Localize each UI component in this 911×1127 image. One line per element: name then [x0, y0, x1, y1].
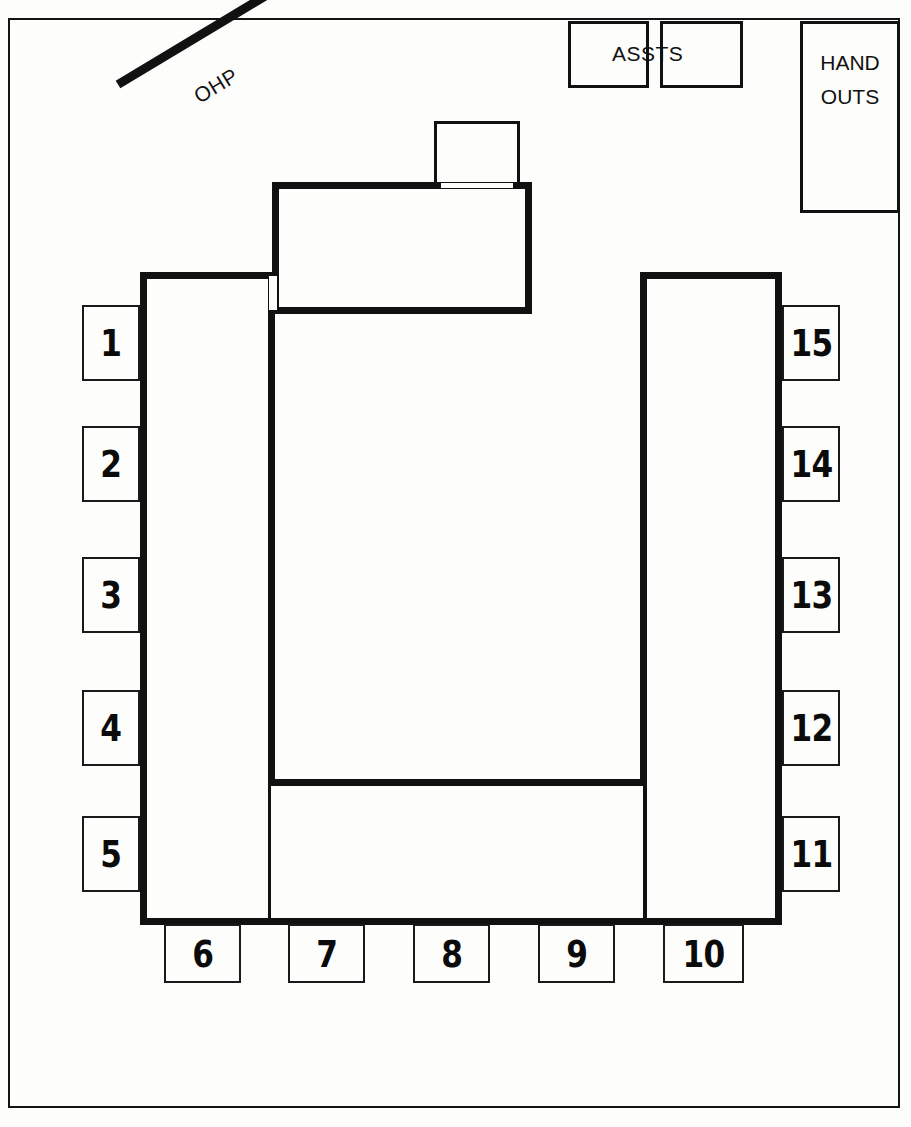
table-bottom-run	[268, 779, 646, 925]
seat-7[interactable]: 7	[288, 924, 365, 983]
seat-13-number: 13	[790, 576, 832, 614]
bottom-bay-left-edge	[268, 786, 271, 920]
seat-8[interactable]: 8	[413, 924, 490, 983]
seat-1-number: 1	[101, 324, 122, 362]
seat-2-number: 2	[101, 445, 122, 483]
assistants-label: ASSTS	[612, 42, 683, 66]
seat-10-number: 10	[683, 935, 725, 973]
seat-12[interactable]: 12	[782, 690, 840, 766]
seat-4[interactable]: 4	[82, 690, 140, 766]
handouts-label-line1: HAND	[803, 46, 897, 80]
seminar-room-plan: OHP ASSTS HAND OUTS 1 2 3 4 5 15	[0, 0, 911, 1127]
handouts-label-line2: OUTS	[803, 80, 897, 114]
head-table	[272, 182, 532, 314]
seat-15[interactable]: 15	[782, 305, 840, 381]
seat-11-number: 11	[790, 835, 832, 873]
seat-6[interactable]: 6	[164, 924, 241, 983]
seat-11[interactable]: 11	[782, 816, 840, 892]
head-left-arm-join-mask	[269, 276, 277, 310]
seat-12-number: 12	[790, 709, 832, 747]
seat-14-number: 14	[790, 445, 832, 483]
seat-4-number: 4	[101, 709, 122, 747]
seat-13[interactable]: 13	[782, 557, 840, 633]
seat-3[interactable]: 3	[82, 557, 140, 633]
seat-9[interactable]: 9	[538, 924, 615, 983]
seat-3-number: 3	[101, 576, 122, 614]
presenter-chair	[434, 121, 520, 189]
seat-9-number: 9	[566, 935, 587, 973]
seat-10[interactable]: 10	[663, 924, 744, 983]
head-table-chair-join-mask	[441, 183, 513, 188]
seat-1[interactable]: 1	[82, 305, 140, 381]
seat-2[interactable]: 2	[82, 426, 140, 502]
table-left-arm	[140, 272, 275, 925]
seat-15-number: 15	[790, 324, 832, 362]
seat-8-number: 8	[441, 935, 462, 973]
seat-7-number: 7	[316, 935, 337, 973]
bottom-bay-right-edge	[643, 786, 646, 920]
seat-6-number: 6	[192, 935, 213, 973]
handouts-label-block: HAND OUTS	[803, 46, 897, 114]
seat-5[interactable]: 5	[82, 816, 140, 892]
table-right-arm	[640, 272, 782, 925]
seat-5-number: 5	[101, 835, 122, 873]
seat-14[interactable]: 14	[782, 426, 840, 502]
